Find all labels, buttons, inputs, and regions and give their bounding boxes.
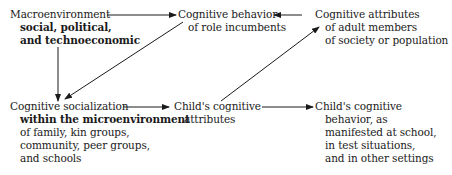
node-childattr-title: Child's cognitive [174,100,261,113]
node-childbeh-line: and in other settings [315,152,436,165]
node-role-behavior: Cognitive behavior of role incumbents [178,8,286,34]
node-macro-title: Macroenvironment [10,8,140,21]
node-macro-line: social, political, [10,21,140,34]
node-role-title: Cognitive behavior [178,8,286,21]
node-social-line: within the microenvironment [10,113,190,126]
node-childbeh-line: behavior, as [315,113,436,126]
node-adult-line: of society or population [315,34,448,47]
node-macro-line: and technoeconomic [10,34,140,47]
node-social-title: Cognitive socialization [10,100,190,113]
node-child-attributes: Child's cognitive attributes [174,100,261,126]
node-childbeh-line: manifested at school, [315,126,436,139]
node-social-line: of family, kin groups, [10,126,190,139]
arrow-childattr-to-adult [221,27,319,101]
node-childattr-line: attributes [174,113,261,126]
node-adult-line: of adult members [315,21,448,34]
node-child-behavior: Child's cognitive behavior, as manifeste… [315,100,436,165]
node-childbeh-line: in test situations, [315,139,436,152]
node-social-line: and schools [10,152,190,165]
node-adult-attributes: Cognitive attributes of adult members of… [315,8,448,47]
node-macroenvironment: Macroenvironment social, political, and … [10,8,140,47]
node-cognitive-socialization: Cognitive socialization within the micro… [10,100,190,165]
node-adult-title: Cognitive attributes [315,8,448,21]
node-role-line: of role incumbents [178,21,286,34]
node-childbeh-title: Child's cognitive [315,100,436,113]
node-social-line: community, peer groups, [10,139,190,152]
